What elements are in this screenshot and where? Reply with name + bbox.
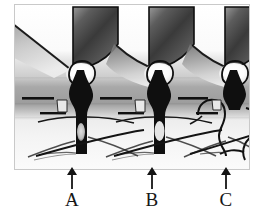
notch-c xyxy=(212,100,221,110)
callout-label-a: A xyxy=(59,190,85,210)
accent-rule-c2 xyxy=(196,112,218,114)
arrow-up-icon-c xyxy=(213,166,239,190)
callout-label-b: B xyxy=(139,190,165,210)
figure-root: A B C xyxy=(0,0,261,211)
crown-c xyxy=(225,7,250,66)
radiolucency-a xyxy=(77,123,85,141)
notch-a xyxy=(57,100,67,112)
callout-c: C xyxy=(213,166,239,210)
arrow-up-icon-a xyxy=(59,166,85,190)
accent-rule-c1 xyxy=(178,97,208,100)
notch-b xyxy=(135,100,145,112)
accent-rule-b1 xyxy=(100,97,132,100)
callout-a: A xyxy=(59,166,85,210)
arrow-up-icon-b xyxy=(139,166,165,190)
illustration-plate xyxy=(14,4,250,170)
accent-rule-a1 xyxy=(22,97,54,100)
callout-label-c: C xyxy=(213,190,239,210)
callout-b: B xyxy=(139,166,165,210)
illustration-canvas xyxy=(14,4,250,170)
radiolucency-b xyxy=(155,121,165,141)
